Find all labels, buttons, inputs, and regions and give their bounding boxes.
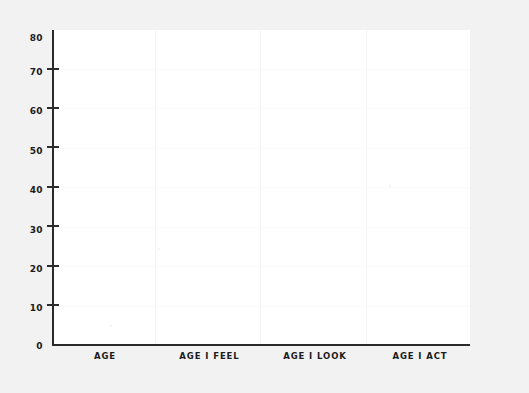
y-axis-label-0-text: 0 [17, 341, 43, 351]
y-axis-label-70: 70 [0, 67, 43, 77]
y-axis-tick-40 [47, 186, 59, 188]
y-axis-tick-70 [47, 68, 59, 70]
y-axis-label-40-text: 40 [17, 185, 43, 195]
y-axis-line [52, 30, 54, 346]
y-axis-label-40: 40 [0, 185, 43, 195]
x-axis-category-age-i-look: AGE I LOOK [262, 351, 368, 362]
value-gridline-40 [53, 187, 470, 188]
value-gridline-50 [53, 148, 470, 149]
value-gridline-10 [53, 306, 470, 307]
y-axis-label-70-text: 70 [17, 67, 43, 77]
y-axis-label-80: 80 [0, 33, 43, 43]
y-axis-label-30: 30 [0, 225, 43, 235]
y-axis-label-60: 60 [0, 106, 43, 116]
y-axis-label-60-text: 60 [17, 106, 43, 116]
y-axis-label-10-text: 10 [17, 303, 43, 313]
paper-speck [110, 325, 112, 327]
y-axis-tick-50 [47, 146, 59, 148]
y-axis-label-10: 10 [0, 303, 43, 313]
plot-area [53, 30, 470, 345]
y-axis-label-20: 20 [0, 264, 43, 274]
y-axis-label-50-text: 50 [17, 146, 43, 156]
y-axis-tick-30 [47, 225, 59, 227]
y-axis-tick-60 [47, 107, 59, 109]
x-axis-category-age: AGE [53, 351, 157, 362]
value-gridline-70 [53, 69, 470, 70]
paper-speck [158, 248, 160, 250]
y-axis-label-80-text: 80 [17, 33, 43, 43]
y-axis-tick-20 [47, 265, 59, 267]
paper-speck [389, 185, 391, 187]
y-axis-label-30-text: 30 [17, 225, 43, 235]
value-gridline-60 [53, 108, 470, 109]
x-axis-category-age-i-act: AGE I ACT [368, 351, 472, 362]
y-axis-label-50: 50 [0, 146, 43, 156]
y-axis-label-20-text: 20 [17, 264, 43, 274]
chart-figure: 80 70 60 50 40 30 20 10 0 AGE AGE I FEEL… [0, 0, 529, 393]
x-axis-line [52, 344, 470, 346]
value-gridline-30 [53, 227, 470, 228]
y-axis-tick-10 [47, 304, 59, 306]
y-axis-label-0: 0 [0, 341, 43, 351]
value-gridline-20 [53, 266, 470, 267]
x-axis-category-age-i-feel: AGE I FEEL [157, 351, 262, 362]
